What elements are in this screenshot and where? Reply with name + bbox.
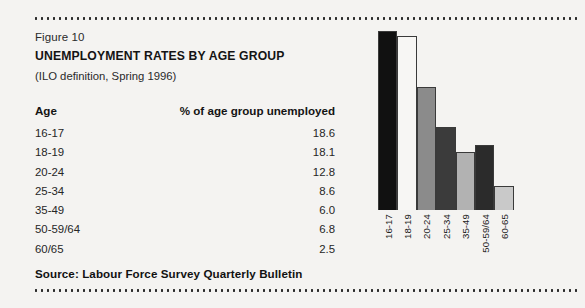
table-row: 50-59/646.8 xyxy=(35,220,335,239)
cell-age-group: 60/65 xyxy=(35,240,102,259)
bar-slot xyxy=(397,31,416,210)
table-row: 25-348.6 xyxy=(35,182,335,201)
bar-slot xyxy=(417,31,436,210)
axis-label-slot: 16-17 xyxy=(378,212,397,274)
bar-slot xyxy=(456,31,475,210)
axis-tick-label: 18-19 xyxy=(402,214,413,239)
figure-title: UNEMPLOYMENT RATES BY AGE GROUP xyxy=(35,48,345,65)
cell-percent-unemployed: 6.8 xyxy=(102,220,335,239)
table-row: 20-2412.8 xyxy=(35,163,335,182)
axis-label-slot: 18-19 xyxy=(397,212,416,274)
cell-age-group: 20-24 xyxy=(35,163,102,182)
bar-slot xyxy=(494,31,513,210)
axis-tick-label: 25-34 xyxy=(440,214,451,239)
axis-tick-label: 35-49 xyxy=(460,214,471,239)
figure-subtitle: (ILO definition, Spring 1996) xyxy=(35,68,345,84)
cell-percent-unemployed: 18.6 xyxy=(102,124,335,143)
chart-bar xyxy=(417,87,436,210)
table-header-row: Age % of age group unemployed xyxy=(35,103,335,124)
bar-slot xyxy=(378,31,397,210)
chart-bar xyxy=(456,152,475,210)
cell-percent-unemployed: 12.8 xyxy=(102,163,335,182)
axis-tick-label: 20-24 xyxy=(421,214,432,239)
axis-label-slot: 60-65 xyxy=(494,212,513,274)
chart-bars xyxy=(378,31,514,210)
cell-age-group: 50-59/64 xyxy=(35,220,102,239)
bar-slot xyxy=(436,31,455,210)
cell-age-group: 16-17 xyxy=(35,124,102,143)
cell-percent-unemployed: 2.5 xyxy=(102,240,335,259)
bar-chart: 16-1718-1920-2425-3435-4950-59/6460-65 xyxy=(378,31,528,281)
table-row: 18-1918.1 xyxy=(35,143,335,162)
chart-bar xyxy=(378,31,397,210)
figure-label: Figure 10 xyxy=(35,30,345,45)
cell-percent-unemployed: 6.0 xyxy=(102,201,335,220)
axis-tick-label: 50-59/64 xyxy=(479,214,490,253)
axis-label-slot: 20-24 xyxy=(417,212,436,274)
column-header-percent: % of age group unemployed xyxy=(102,103,335,124)
axis-label-slot: 25-34 xyxy=(436,212,455,274)
axis-label-slot: 35-49 xyxy=(456,212,475,274)
table-row: 60/652.5 xyxy=(35,240,335,259)
axis-tick-label: 60-65 xyxy=(499,214,510,239)
bar-slot xyxy=(475,31,494,210)
table-body: 16-1718.618-1918.120-2412.825-348.635-49… xyxy=(35,124,335,259)
cell-age-group: 25-34 xyxy=(35,182,102,201)
chart-bar xyxy=(475,145,494,210)
source-note: Source: Labour Force Survey Quarterly Bu… xyxy=(35,267,302,280)
table-row: 35-496.0 xyxy=(35,201,335,220)
cell-age-group: 35-49 xyxy=(35,201,102,220)
unemployment-data-table: Age % of age group unemployed 16-1718.61… xyxy=(35,103,335,259)
axis-tick-label: 16-17 xyxy=(382,214,393,239)
cell-percent-unemployed: 18.1 xyxy=(102,143,335,162)
axis-label-slot: 50-59/64 xyxy=(475,212,494,274)
column-header-age: Age xyxy=(35,103,102,124)
cell-age-group: 18-19 xyxy=(35,143,102,162)
table-row: 16-1718.6 xyxy=(35,124,335,143)
chart-bar xyxy=(436,127,455,210)
chart-bar xyxy=(494,186,513,210)
cell-percent-unemployed: 8.6 xyxy=(102,182,335,201)
figure-panel: Figure 10 UNEMPLOYMENT RATES BY AGE GROU… xyxy=(0,0,585,308)
chart-bar xyxy=(397,36,416,210)
chart-x-axis-labels: 16-1718-1920-2425-3435-4950-59/6460-65 xyxy=(378,212,514,274)
figure-heading-block: Figure 10 UNEMPLOYMENT RATES BY AGE GROU… xyxy=(35,30,345,84)
chart-plot-area xyxy=(378,31,514,210)
